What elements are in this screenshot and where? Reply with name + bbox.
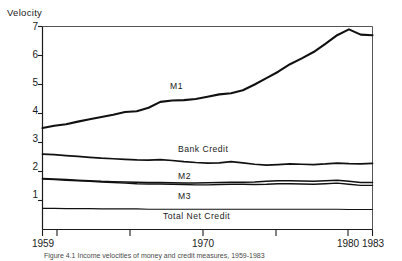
series-label-total-net-credit: Total Net Credit [163,211,230,221]
x-tick-label-1970: 1970 [190,238,216,249]
series-label-m2: M2 [178,171,191,181]
x-tick-label-1959: 1959 [30,238,56,249]
chart-plot-area [0,0,402,261]
x-tick-label-1980: 1980 [335,238,361,249]
series-line-bank-credit [43,154,373,165]
velocity-line-chart: Velocity 7 6 5 4 3 2 1 [0,0,402,261]
x-tick-marks [43,230,373,237]
series-label-m1: M1 [170,81,183,91]
figure-caption: Figure 4.1 Income velocities of money an… [44,252,374,261]
series-line-total-net-credit [43,208,373,209]
series-label-bank-credit: Bank Credit [178,144,228,154]
y-tick-marks [38,27,43,201]
series-line-m1 [43,29,373,128]
series-label-m3: M3 [178,191,191,201]
x-tick-label-1983: 1983 [360,238,386,249]
